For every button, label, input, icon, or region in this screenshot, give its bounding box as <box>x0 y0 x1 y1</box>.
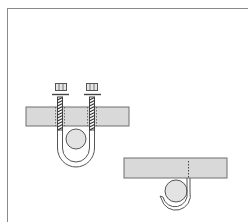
support-beam-upper <box>26 107 129 126</box>
strap-hanger-panel <box>124 158 227 210</box>
nut-left <box>56 84 67 91</box>
pipe-lower <box>165 180 187 202</box>
nut-right <box>87 84 98 91</box>
strap-end-hook <box>160 196 163 199</box>
threaded-rod-right <box>90 97 95 130</box>
pipe-hanger-diagram <box>0 0 248 222</box>
threaded-rod-left <box>58 97 63 130</box>
support-beam-lower <box>124 158 227 178</box>
u-bolt-hanger-panel <box>26 84 129 167</box>
pipe-upper <box>66 129 86 149</box>
